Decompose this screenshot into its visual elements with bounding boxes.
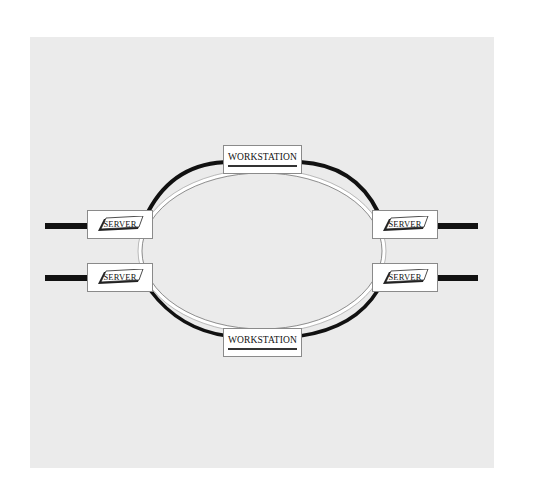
workstation-top-label: WORKSTATION [228, 152, 297, 167]
link-right-upper [437, 223, 478, 229]
link-left-lower [45, 275, 87, 281]
server-right-upper[interactable]: SERVER [372, 210, 438, 239]
server-left-upper[interactable]: SERVER [87, 210, 153, 239]
workstation-top[interactable]: WORKSTATION [223, 145, 302, 174]
server-left-lower-label: SERVER [98, 270, 142, 285]
link-right-lower [437, 275, 478, 281]
server-left-lower[interactable]: SERVER [87, 263, 153, 292]
server-left-upper-label: SERVER [98, 217, 142, 232]
server-right-lower[interactable]: SERVER [372, 263, 438, 292]
workstation-bottom[interactable]: WORKSTATION [223, 328, 302, 357]
link-left-upper [45, 223, 87, 229]
workstation-bottom-label: WORKSTATION [228, 335, 297, 350]
ring-outline [142, 173, 382, 329]
ring-network [0, 0, 549, 502]
ring-inner-band [140, 171, 384, 331]
server-right-lower-label: SERVER [383, 270, 427, 285]
server-right-upper-label: SERVER [383, 217, 427, 232]
